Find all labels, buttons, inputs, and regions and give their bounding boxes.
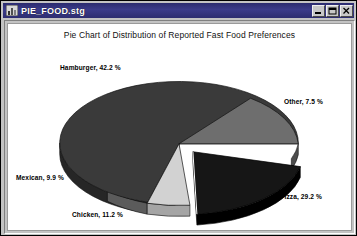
slice-label-other: Other, 7.5 % bbox=[284, 98, 323, 105]
maximize-button[interactable] bbox=[326, 5, 339, 17]
slice-label-chicken: Chicken, 11.2 % bbox=[72, 211, 123, 218]
minimize-button[interactable] bbox=[312, 5, 325, 17]
close-button[interactable] bbox=[340, 5, 353, 17]
slice-group-pizza bbox=[193, 152, 300, 225]
slice-label-pizza: Pizza, 29.2 % bbox=[280, 193, 322, 200]
window-title: PIE_FOOD.stg bbox=[21, 6, 311, 16]
pie-chart-canvas[interactable]: Pie Chart of Distribution of Reported Fa… bbox=[7, 23, 352, 231]
slice-top-pizza bbox=[193, 152, 300, 214]
slice-label-mexican: Mexican, 9.9 % bbox=[16, 174, 64, 181]
title-bar[interactable]: PIE_FOOD.stg bbox=[3, 3, 354, 18]
slice-label-hamburger: Hamburger, 42.2 % bbox=[60, 64, 121, 71]
chart-document-icon bbox=[6, 5, 18, 16]
application-window: PIE_FOOD.stg Pie Chart of Distribution o… bbox=[0, 0, 357, 236]
client-area: Pie Chart of Distribution of Reported Fa… bbox=[4, 20, 355, 234]
